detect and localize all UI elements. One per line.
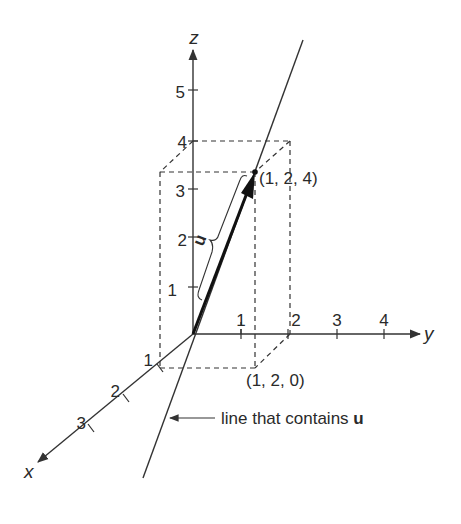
point-tip-label: (1, 2, 4)	[259, 169, 318, 188]
x-axis-label: x	[23, 461, 35, 482]
annotation-bold-u: u	[353, 409, 363, 428]
z-tick-4: 4	[178, 133, 187, 152]
z-axis-label: z	[188, 27, 199, 48]
x-tick-3: 3	[77, 414, 86, 433]
z-tick-3: 3	[176, 182, 185, 201]
x-tick-1: 1	[144, 351, 153, 370]
point-tip	[252, 169, 258, 175]
z-tick-5: 5	[176, 83, 185, 102]
annotation-label: line that contains u	[221, 409, 364, 428]
y-tick-2: 2	[291, 311, 300, 330]
z-tick-2: 2	[178, 231, 187, 250]
z-tick-1: 1	[168, 281, 177, 300]
y-axis-label: y	[422, 323, 435, 344]
vector-u-label: u	[189, 232, 210, 249]
x-ticks	[88, 364, 163, 432]
annotation-text: line that contains	[221, 409, 353, 428]
x-tick-2: 2	[111, 382, 120, 401]
y-tick-4: 4	[379, 311, 388, 330]
y-tick-1: 1	[236, 311, 245, 330]
vector-diagram: 1 2 3 4 5 1 2 3 4 1 2 3 z y x u (1, 2, 4…	[0, 0, 461, 524]
point-base-label: (1, 2, 0)	[246, 371, 305, 390]
y-tick-3: 3	[332, 311, 341, 330]
